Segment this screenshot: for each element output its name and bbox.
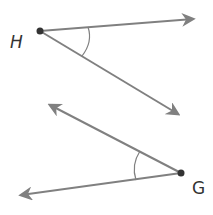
ray-g-lower: [21, 173, 181, 195]
angle-h: H: [10, 19, 193, 114]
label-g: G: [192, 178, 205, 198]
angle-diagram: H G: [0, 0, 213, 215]
angle-arc-g: [134, 151, 140, 180]
vertex-h-point: [37, 28, 44, 35]
ray-h-upper: [40, 19, 193, 31]
ray-g-upper: [50, 105, 181, 173]
ray-h-lower: [40, 31, 178, 114]
label-h: H: [10, 32, 23, 52]
angle-g: G: [21, 105, 205, 198]
vertex-g-point: [178, 170, 185, 177]
angle-arc-h: [82, 27, 90, 56]
